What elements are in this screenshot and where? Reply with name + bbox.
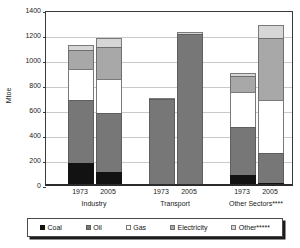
x-tick-year: 2005 [169, 188, 209, 195]
y-tick-label: 1000 [5, 57, 41, 64]
bar-segment-gas [230, 92, 256, 127]
y-tick-label: 1400 [5, 7, 41, 14]
x-tick-year: 2005 [250, 188, 290, 195]
legend-swatch-gas-icon [126, 225, 131, 230]
legend-label: Gas [133, 224, 146, 231]
bar-industry-2005 [96, 38, 122, 184]
bar-segment-electricity [68, 50, 94, 69]
legend-item-oil[interactable]: Oil [86, 224, 102, 231]
bar-segment-gas [68, 69, 94, 100]
bar-segment-coal [230, 175, 256, 184]
legend-swatch-other-icon [231, 225, 236, 230]
legend-swatch-oil-icon [86, 225, 91, 230]
bar-segment-coal [68, 163, 94, 184]
bar-segment-electricity [230, 76, 256, 92]
bar-segment-oil [96, 113, 122, 171]
y-tick-label: 800 [5, 82, 41, 89]
legend-item-other[interactable]: Other***** [231, 224, 270, 231]
legend-swatch-coal-icon [40, 225, 45, 230]
legend-item-coal[interactable]: Coal [40, 224, 62, 231]
legend-swatch-electricity-icon [170, 225, 175, 230]
chart-legend: CoalOilGasElectricityOther***** [27, 218, 283, 237]
bar-segment-gas [96, 79, 122, 113]
bar-segment-oil [230, 127, 256, 175]
bar-segment-oil [258, 153, 284, 183]
bar-segment-oil [149, 99, 175, 184]
bar-segment-oil [177, 34, 203, 184]
y-tick-label: 600 [5, 107, 41, 114]
legend-item-electricity[interactable]: Electricity [170, 224, 207, 231]
x-tick-year: 2005 [88, 188, 128, 195]
bar-segment-other [96, 38, 122, 47]
stacked-bar-chart: Mtoe 0200400600800100012001400 197320051… [0, 0, 300, 248]
bar-segment-electricity [96, 47, 122, 79]
bar-segment-coal [258, 183, 284, 184]
y-tick-label: 0 [5, 182, 41, 189]
plot-area [45, 11, 293, 186]
x-group-label: Other Sectors**** [206, 200, 300, 207]
bar-segment-other [258, 25, 284, 38]
x-axis: 197320051973200519732005IndustryTranspor… [45, 188, 293, 216]
bar-industry-1973 [68, 45, 94, 184]
y-tick-label: 1200 [5, 32, 41, 39]
bar-other-sectors--1973 [230, 73, 256, 184]
bar-transport-1973 [149, 98, 175, 184]
legend-label: Other***** [239, 224, 270, 231]
y-tick-label: 200 [5, 157, 41, 164]
legend-label: Oil [93, 224, 102, 231]
bars-container [46, 12, 292, 184]
bar-segment-gas [258, 100, 284, 153]
y-tick-label: 400 [5, 132, 41, 139]
bar-segment-coal [96, 172, 122, 185]
bar-segment-electricity [258, 38, 284, 100]
legend-label: Electricity [177, 224, 207, 231]
bar-other-sectors--2005 [258, 25, 284, 184]
legend-label: Coal [47, 224, 61, 231]
bar-segment-oil [68, 100, 94, 164]
legend-item-gas[interactable]: Gas [126, 224, 146, 231]
bar-transport-2005 [177, 32, 203, 184]
